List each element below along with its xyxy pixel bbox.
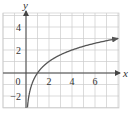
x-tick-label: 0 xyxy=(16,76,21,87)
chart: 0246−224 x y xyxy=(0,0,131,132)
x-tick-label: 4 xyxy=(70,76,75,87)
x-tick-label: 2 xyxy=(47,76,52,87)
y-tick-label: 4 xyxy=(16,22,21,33)
x-tick-label: 6 xyxy=(93,76,98,87)
y-axis-label: y xyxy=(22,0,28,11)
y-tick-label: −2 xyxy=(10,91,21,102)
x-axis-label: x xyxy=(122,67,128,79)
y-tick-label: 2 xyxy=(16,45,21,56)
